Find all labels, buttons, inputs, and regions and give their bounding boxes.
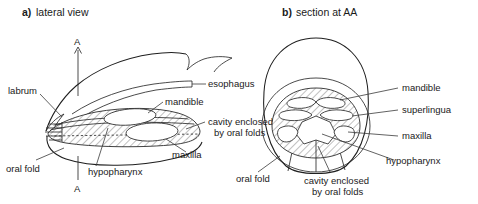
label-cavity-b-line1: cavity enclosed — [304, 175, 369, 186]
label-hypopharynx-a: hypopharynx — [88, 166, 143, 177]
leader-oral-fold-b — [258, 156, 280, 172]
panel-a-letter: a) — [22, 6, 31, 18]
label-labrum: labrum — [8, 85, 37, 96]
label-oral-fold-a: oral fold — [6, 163, 40, 174]
label-maxilla-a: maxilla — [172, 149, 202, 160]
label-esophagus: esophagus — [208, 78, 255, 89]
label-mandible-b: mandible — [402, 82, 441, 93]
label-oral-fold-b: oral fold — [236, 173, 270, 184]
label-hypopharynx-b: hypopharynx — [386, 155, 441, 166]
panel-b-caption: section at AA — [296, 6, 357, 18]
section-mark-a-bottom: A — [74, 183, 81, 194]
label-maxilla-b: maxilla — [402, 130, 432, 141]
leader-superlingua-b — [352, 110, 398, 116]
panel-a-caption: lateral view — [36, 6, 89, 18]
label-cavity-b-line2: by oral folds — [312, 186, 363, 197]
panel-b-letter: b) — [282, 6, 292, 18]
diagram-svg: a) lateral view b) section at AA A A — [0, 0, 478, 204]
leader-mandible-b — [340, 88, 398, 100]
leader-oral-fold-a — [36, 148, 64, 160]
label-superlingua-b: superlingua — [402, 104, 452, 115]
label-mandible-a: mandible — [165, 96, 204, 107]
section-mark-a-top: A — [74, 36, 81, 47]
section-line-a-top — [75, 47, 82, 96]
lateral-view-drawing: A A — [6, 36, 273, 194]
label-cavity-a-line2: by oral folds — [214, 127, 265, 138]
head-posterior-outline — [214, 58, 232, 72]
figure-canvas: a) lateral view b) section at AA A A — [0, 0, 478, 204]
label-cavity-a-line1: cavity enclosed — [208, 116, 273, 127]
